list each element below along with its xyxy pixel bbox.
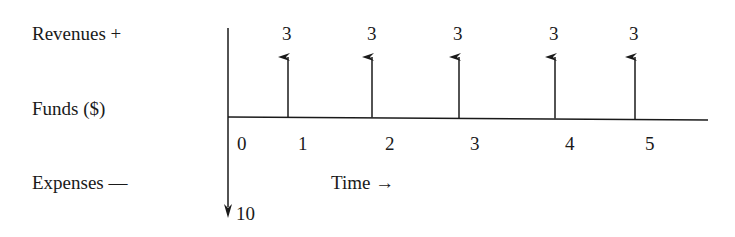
- tick-2: 2: [385, 134, 395, 153]
- inflow-arrows: [288, 57, 635, 119]
- time-axis: [228, 117, 708, 120]
- inflow-amount-1: 3: [282, 24, 292, 43]
- inflow-amount-4: 3: [549, 24, 559, 43]
- tick-4: 4: [565, 134, 575, 153]
- tick-3: 3: [470, 134, 480, 153]
- inflow-amount-5: 3: [629, 24, 639, 43]
- tick-0: 0: [237, 134, 247, 153]
- tick-1: 1: [298, 134, 308, 153]
- outflow-amount: 10: [236, 204, 255, 223]
- inflow-amount-3: 3: [453, 24, 463, 43]
- time-label: Time →: [331, 173, 394, 192]
- tick-5: 5: [645, 134, 655, 153]
- inflow-amount-2: 3: [367, 24, 377, 43]
